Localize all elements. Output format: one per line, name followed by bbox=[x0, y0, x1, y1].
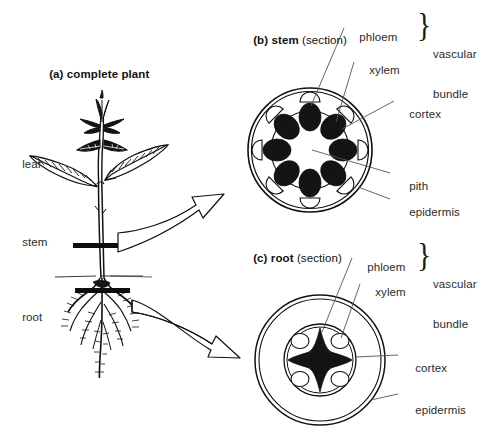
panel-b-heading-bold: stem bbox=[271, 34, 298, 46]
label-stem-pith-text: pith bbox=[409, 180, 428, 192]
label-root-epidermis-text: epidermis bbox=[415, 404, 466, 416]
label-root-phloem-text: phloem bbox=[367, 261, 405, 273]
label-stem-text: stem bbox=[22, 236, 47, 248]
panel-b-heading: (b) stem (section) bbox=[240, 20, 347, 61]
label-root-text: root bbox=[22, 311, 42, 323]
label-stem: stem bbox=[9, 222, 48, 263]
panel-c-heading-bold: root bbox=[271, 252, 294, 264]
label-leaf-text: leaf bbox=[22, 158, 41, 170]
panel-c-heading-suffix: (section) bbox=[297, 252, 342, 264]
panel-a-heading-text: (a) complete plant bbox=[49, 68, 149, 80]
arrow-to-stem-section bbox=[118, 194, 224, 252]
arrow-to-root-section bbox=[132, 300, 240, 358]
label-stem-vascular-line2: bundle bbox=[433, 88, 477, 101]
brace-glyph-stem: } bbox=[417, 6, 431, 43]
panel-c-heading-prefix: (c) bbox=[253, 252, 267, 264]
label-root-xylem: xylem bbox=[362, 272, 406, 313]
brace-glyph-root: } bbox=[417, 236, 431, 273]
panel-c-heading: (c) root (section) bbox=[240, 238, 342, 279]
label-root-vascular-line2: bundle bbox=[433, 318, 477, 331]
botany-figure: (a) complete plant leaf stem root (b) st… bbox=[0, 0, 484, 439]
plant-apex bbox=[80, 90, 124, 133]
label-stem-xylem-text: xylem bbox=[369, 64, 400, 76]
label-stem-epidermis: epidermis bbox=[396, 192, 460, 233]
label-root-cortex-text: cortex bbox=[415, 362, 447, 374]
label-stem-vascular-line1: vascular bbox=[433, 48, 477, 61]
label-root-vascular-line1: vascular bbox=[433, 278, 477, 291]
brace-icon-stem: } bbox=[417, 8, 431, 42]
label-root-epidermis: epidermis bbox=[402, 390, 466, 431]
brace-icon-root: } bbox=[417, 238, 431, 272]
label-leaf: leaf bbox=[9, 144, 41, 185]
label-stem-vascular-bundle: vascular bundle bbox=[433, 22, 477, 128]
label-stem-phloem-text: phloem bbox=[359, 31, 397, 43]
label-stem-epidermis-text: epidermis bbox=[409, 206, 460, 218]
label-root: root bbox=[9, 297, 42, 338]
label-stem-xylem: xylem bbox=[356, 50, 400, 91]
panel-a-heading: (a) complete plant bbox=[36, 54, 149, 95]
panel-b-heading-suffix: (section) bbox=[302, 34, 347, 46]
label-root-vascular-bundle: vascular bundle bbox=[433, 252, 477, 358]
root-section-marker bbox=[75, 288, 130, 293]
panel-b-heading-prefix: (b) bbox=[253, 34, 268, 46]
label-root-xylem-text: xylem bbox=[375, 286, 406, 298]
